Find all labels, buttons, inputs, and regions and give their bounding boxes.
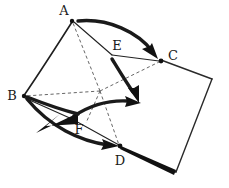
diagram-canvas: A B C D E F — [0, 0, 229, 188]
vertex-label-c: C — [168, 48, 178, 63]
dashed-edge-center-to-b — [25, 91, 100, 96]
edge-b-to-f — [25, 98, 72, 119]
vertex-dot-d — [118, 144, 123, 149]
curved-edges — [25, 22, 72, 94]
motion-arrows — [27, 21, 176, 175]
edge-e-to-c — [112, 55, 159, 61]
edge-a-to-b-curve — [25, 22, 72, 94]
arrow-center-right-shaft — [74, 101, 128, 116]
wedge-d-to-corner — [120, 146, 176, 175]
vertex-dot-b — [22, 94, 26, 98]
dashed-edge-center-to-d — [100, 91, 119, 145]
vertex-label-d: D — [115, 153, 125, 168]
edge-right-corner-to-bottom — [176, 79, 212, 172]
vertex-dot-a — [70, 19, 74, 23]
vertex-label-f: F — [74, 122, 83, 137]
vertex-label-b: B — [7, 88, 17, 103]
edge-c-to-right-corner — [161, 60, 212, 79]
arrow-e-down-shaft — [112, 59, 133, 92]
edge-a-to-e — [74, 22, 112, 55]
vertex-label-e: E — [112, 38, 122, 53]
vertex-label-a: A — [58, 3, 69, 18]
arrow-a-to-c-head — [142, 43, 158, 59]
figure-svg: A B C D E F — [0, 0, 229, 188]
vertex-dot-c — [159, 59, 164, 64]
